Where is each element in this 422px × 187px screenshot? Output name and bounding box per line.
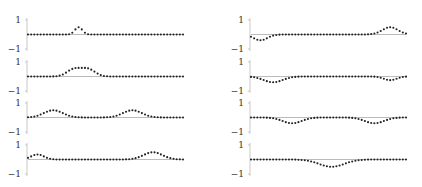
- data-point: [361, 33, 363, 35]
- data-point: [386, 158, 388, 160]
- data-point: [313, 33, 315, 35]
- data-point: [282, 158, 284, 160]
- y-tick-label: −1: [231, 44, 244, 54]
- data-point: [278, 80, 280, 82]
- data-point: [259, 158, 261, 160]
- data-point: [49, 33, 51, 35]
- data-point: [112, 115, 114, 117]
- data-point: [402, 158, 404, 160]
- data-point: [40, 113, 42, 115]
- data-point: [62, 33, 64, 35]
- data-point: [351, 75, 353, 77]
- data-point: [125, 75, 127, 77]
- data-point: [182, 158, 184, 160]
- data-point: [59, 111, 61, 113]
- data-point: [33, 154, 35, 156]
- data-point: [256, 39, 258, 41]
- data-point: [345, 162, 347, 164]
- data-point: [310, 75, 312, 77]
- data-point: [402, 76, 404, 78]
- data-point: [144, 33, 146, 35]
- data-point: [253, 37, 255, 39]
- data-point: [131, 158, 133, 160]
- data-point: [49, 158, 51, 160]
- data-point: [345, 75, 347, 77]
- data-point: [405, 116, 407, 118]
- y-tick-label: −1: [8, 127, 21, 137]
- data-point: [106, 33, 108, 35]
- data-point: [367, 33, 369, 35]
- data-point: [275, 34, 277, 36]
- data-point: [103, 116, 105, 118]
- data-point: [386, 79, 388, 81]
- data-point: [116, 115, 118, 117]
- data-point: [405, 32, 407, 34]
- data-point: [166, 33, 168, 35]
- data-point: [395, 28, 397, 30]
- data-point: [285, 78, 287, 80]
- data-point: [386, 119, 388, 121]
- data-point: [36, 115, 38, 117]
- data-point: [46, 111, 48, 113]
- data-point: [150, 75, 152, 77]
- data-point: [354, 75, 356, 77]
- data-point: [43, 33, 45, 35]
- data-point: [59, 33, 61, 35]
- chart-grid: 1−11−11−11−11−11−11−11−1: [0, 0, 422, 187]
- data-point: [27, 116, 29, 118]
- data-point: [43, 112, 45, 114]
- data-point: [71, 115, 73, 117]
- data-point: [307, 160, 309, 162]
- data-point: [291, 33, 293, 35]
- y-tick-label: −1: [8, 86, 21, 96]
- data-point: [275, 158, 277, 160]
- data-point: [376, 76, 378, 78]
- data-point: [100, 33, 102, 35]
- data-point: [342, 116, 344, 118]
- data-point: [166, 116, 168, 118]
- data-point: [125, 158, 127, 160]
- data-point: [399, 77, 401, 79]
- data-point: [348, 33, 350, 35]
- data-point: [253, 158, 255, 160]
- data-point: [392, 117, 394, 119]
- data-point: [275, 118, 277, 120]
- data-point: [62, 158, 64, 160]
- data-point: [297, 33, 299, 35]
- data-point: [40, 75, 42, 77]
- data-point: [383, 28, 385, 30]
- data-point: [351, 33, 353, 35]
- data-point: [74, 158, 76, 160]
- data-point: [399, 158, 401, 160]
- data-point: [307, 75, 309, 77]
- data-point: [122, 112, 124, 114]
- data-point: [339, 33, 341, 35]
- data-point: [332, 116, 334, 118]
- data-point: [147, 75, 149, 77]
- data-point: [128, 33, 130, 35]
- data-point: [367, 121, 369, 123]
- data-point: [59, 158, 61, 160]
- data-point: [395, 78, 397, 80]
- data-point: [87, 33, 89, 35]
- data-point: [345, 33, 347, 35]
- data-point: [49, 75, 51, 77]
- data-point: [288, 33, 290, 35]
- data-point: [40, 154, 42, 156]
- data-point: [179, 158, 181, 160]
- data-point: [109, 116, 111, 118]
- data-point: [332, 33, 334, 35]
- y-tick-label: 1: [238, 98, 244, 108]
- data-point: [138, 33, 140, 35]
- data-point: [323, 116, 325, 118]
- data-point: [68, 158, 70, 160]
- data-point: [304, 159, 306, 161]
- data-point: [380, 121, 382, 123]
- data-point: [128, 75, 130, 77]
- data-point: [153, 116, 155, 118]
- data-point: [348, 117, 350, 119]
- data-point: [109, 158, 111, 160]
- data-point: [103, 75, 105, 77]
- data-point: [68, 70, 70, 72]
- data-point: [90, 116, 92, 118]
